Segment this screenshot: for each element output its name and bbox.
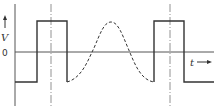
waveform-diagram: V 0 t (0, 0, 214, 108)
origin-label: 0 (2, 48, 8, 58)
y-arrow-icon (3, 15, 7, 28)
x-axis-label: t (190, 57, 195, 68)
y-axis-label: V (1, 32, 10, 43)
x-arrow-icon (197, 60, 212, 64)
